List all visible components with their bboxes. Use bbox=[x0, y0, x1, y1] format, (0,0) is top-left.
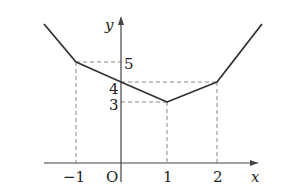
function-curve bbox=[44, 24, 262, 102]
tick-x-neg1: −1 bbox=[63, 168, 85, 186]
tick-y-5: 5 bbox=[124, 55, 134, 73]
y-axis-label: y bbox=[104, 16, 114, 34]
piecewise-graph: y x O −1 1 2 5 4 3 bbox=[0, 0, 284, 194]
x-axis-arrow-icon bbox=[250, 160, 258, 166]
x-axis-label: x bbox=[251, 168, 260, 186]
tick-x-1: 1 bbox=[163, 168, 173, 186]
tick-x-2: 2 bbox=[213, 168, 223, 186]
origin-label: O bbox=[106, 168, 118, 186]
tick-y-3: 3 bbox=[109, 96, 119, 114]
guide-lines bbox=[76, 62, 217, 163]
y-axis-arrow-icon bbox=[118, 16, 124, 25]
